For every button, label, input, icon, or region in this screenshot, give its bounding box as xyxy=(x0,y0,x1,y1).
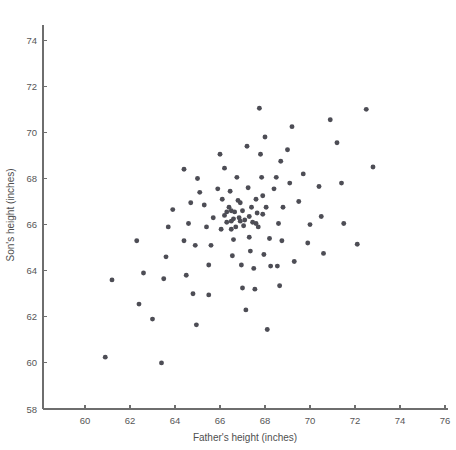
scatter-point xyxy=(195,176,200,181)
scatter-point xyxy=(206,262,211,267)
scatter-point xyxy=(222,213,227,218)
scatter-point xyxy=(321,251,326,256)
scatter-point xyxy=(220,197,225,202)
scatter-point xyxy=(281,205,286,210)
scatter-point xyxy=(159,360,164,365)
x-axis-tick-label: 60 xyxy=(80,415,91,426)
scatter-point xyxy=(141,271,146,276)
scatter-point xyxy=(219,227,224,232)
scatter-point xyxy=(231,237,236,242)
scatter-point xyxy=(285,147,290,152)
scatter-point xyxy=(222,166,227,171)
scatter-point xyxy=(182,238,187,243)
y-axis-title: Son's height (inches) xyxy=(5,168,16,261)
y-axis-tick-label: 72 xyxy=(26,81,37,92)
scatter-point xyxy=(371,165,376,170)
y-axis-tick-label: 70 xyxy=(26,127,37,138)
x-axis-tick-label: 66 xyxy=(215,415,226,426)
scatter-point xyxy=(229,227,234,232)
scatter-point xyxy=(137,302,142,307)
scatter-point xyxy=(287,181,292,186)
y-axis-tick-label: 74 xyxy=(26,35,37,46)
scatter-point xyxy=(255,211,260,216)
scatter-point xyxy=(228,189,233,194)
scatter-point xyxy=(246,185,251,190)
x-axis-tick-label: 76 xyxy=(440,415,451,426)
scatter-point xyxy=(290,124,295,129)
scatter-point xyxy=(305,241,310,246)
scatter-point xyxy=(279,238,284,243)
scatter-point xyxy=(254,197,259,202)
scatter-point xyxy=(134,238,139,243)
scatter-point xyxy=(277,283,282,288)
scatter-point xyxy=(355,242,360,247)
scatter-point xyxy=(251,266,256,271)
scatter-point xyxy=(257,106,262,111)
scatter-point xyxy=(224,220,229,225)
scatter-point xyxy=(296,199,301,204)
y-axis-tick-label: 58 xyxy=(26,404,37,415)
scatter-point xyxy=(245,144,250,149)
scatter-point xyxy=(231,216,236,221)
scatter-point xyxy=(233,224,238,229)
scatter-point xyxy=(364,107,369,112)
scatter-point xyxy=(202,203,207,208)
scatter-point xyxy=(252,287,257,292)
scatter-point xyxy=(276,221,281,226)
scatter-point xyxy=(247,214,252,219)
scatter-point xyxy=(206,292,211,297)
y-axis-tick-label: 64 xyxy=(26,265,37,276)
scatter-point xyxy=(260,193,265,198)
scatter-point xyxy=(319,214,324,219)
scatter-point xyxy=(150,317,155,322)
scatter-point xyxy=(238,219,243,224)
scatter-point xyxy=(339,181,344,186)
scatter-point xyxy=(164,254,169,259)
x-axis-tick-label: 68 xyxy=(260,415,271,426)
scatter-point xyxy=(188,200,193,205)
scatter-point xyxy=(265,327,270,332)
scatter-point xyxy=(258,152,263,157)
scatter-point xyxy=(275,264,280,269)
x-axis-tick-label: 72 xyxy=(350,415,361,426)
scatter-point xyxy=(234,175,239,180)
tick-labels-group: 606264666870727476586062646668707274 xyxy=(26,35,450,426)
scatter-point xyxy=(242,218,247,223)
x-axis-tick-label: 62 xyxy=(125,415,136,426)
scatter-plot-figure: 606264666870727476586062646668707274 Fat… xyxy=(0,0,456,450)
scatter-point xyxy=(249,205,254,210)
scatter-point xyxy=(335,140,340,145)
scatter-point xyxy=(259,175,264,180)
scatter-point xyxy=(240,208,245,213)
scatter-point xyxy=(215,186,220,191)
scatter-point xyxy=(170,207,175,212)
scatter-point xyxy=(166,224,171,229)
scatter-point xyxy=(268,264,273,269)
scatter-point xyxy=(218,152,223,157)
scatter-point xyxy=(232,209,237,214)
scatter-point xyxy=(274,175,279,180)
scatter-point xyxy=(254,221,259,226)
scatter-point xyxy=(209,243,214,248)
scatter-point xyxy=(103,355,108,360)
scatter-point xyxy=(341,221,346,226)
y-axis-tick-label: 60 xyxy=(26,357,37,368)
scatter-point xyxy=(204,224,209,229)
scatter-point xyxy=(197,190,202,195)
y-axis-tick-label: 66 xyxy=(26,219,37,230)
scatter-point xyxy=(263,135,268,140)
axes-group xyxy=(43,25,448,409)
scatter-point xyxy=(292,259,297,264)
scatter-point xyxy=(301,171,306,176)
y-axis-tick-label: 62 xyxy=(26,311,37,322)
scatter-point xyxy=(238,200,243,205)
scatter-point xyxy=(194,322,199,327)
scatter-point xyxy=(191,291,196,296)
scatter-point xyxy=(328,117,333,122)
scatter-point xyxy=(308,222,313,227)
scatter-point xyxy=(161,276,166,281)
scatter-point xyxy=(264,205,269,210)
scatter-point xyxy=(110,277,115,282)
x-axis-tick-label: 74 xyxy=(395,415,406,426)
scatter-point xyxy=(182,167,187,172)
